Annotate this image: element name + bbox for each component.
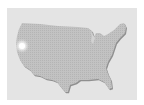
us-map-land: [16, 23, 126, 92]
location-marker-icon[interactable]: [19, 43, 25, 49]
us-map: [0, 0, 144, 105]
